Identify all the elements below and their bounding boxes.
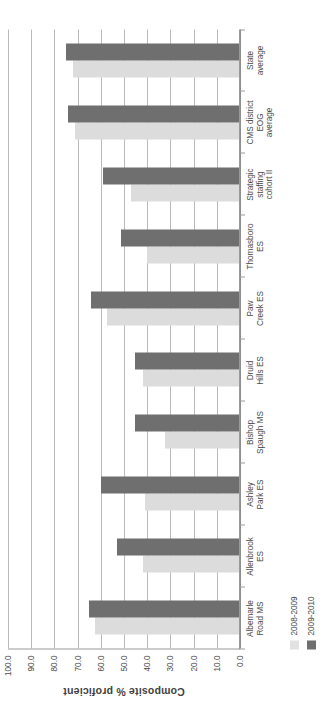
bar-2008-2009 <box>143 555 239 572</box>
legend-item[interactable]: 2008-2009 <box>290 596 299 649</box>
category-label-line: average <box>265 92 275 152</box>
bar-group <box>8 462 239 524</box>
bar-group <box>8 400 239 462</box>
bar-2008-2009 <box>73 60 239 77</box>
bar-group <box>8 91 239 153</box>
category-label-line: Paw <box>246 278 256 338</box>
bar-2008-2009 <box>95 617 239 634</box>
bar-2009-2010 <box>121 229 239 246</box>
category-label-line: Park ES <box>256 464 266 524</box>
legend-swatch-icon <box>290 640 299 649</box>
bar-2009-2010 <box>101 476 239 493</box>
bar-2008-2009 <box>143 369 239 386</box>
category-tick <box>240 462 245 463</box>
bar-groups <box>8 29 239 648</box>
category-tick-marks <box>240 29 245 649</box>
category-label: Stateaverage <box>246 29 286 91</box>
plot-wrapper: Composite % proficient 0.010.020.030.040… <box>0 0 330 705</box>
category-label-line: Thomasboro <box>246 216 256 276</box>
category-tick <box>240 586 245 587</box>
category-label-line: CMS district <box>246 92 256 152</box>
y-axis-tick-label: 30.0 <box>166 655 175 671</box>
category-label-line: staffing <box>256 154 266 214</box>
category-tick <box>240 29 245 30</box>
chart-legend: 2008-20092009-2010 <box>290 29 326 649</box>
bar-group <box>8 29 239 91</box>
legend-item[interactable]: 2009-2010 <box>307 596 316 649</box>
category-label-line: ES <box>256 216 266 276</box>
category-axis-labels: AlbemarleRoad MSAllenbrookESAshleyPark E… <box>246 29 286 649</box>
category-label-line: Spaugh MS <box>256 402 266 462</box>
y-axis-title-text: Composite % proficient <box>63 685 185 697</box>
category-label: AshleyPark ES <box>246 463 286 525</box>
chart-canvas: Composite % proficient 0.010.020.030.040… <box>0 0 330 705</box>
y-axis-tick-label: 70.0 <box>73 655 82 671</box>
y-axis-tick-labels: 0.010.020.030.040.050.060.070.080.090.01… <box>0 651 248 685</box>
bar-2009-2010 <box>89 600 239 617</box>
category-label-line: Allenbrook <box>246 526 256 586</box>
y-axis-tick-label: 20.0 <box>189 655 198 671</box>
category-tick <box>240 400 245 401</box>
bar-2008-2009 <box>107 308 239 325</box>
bar-2009-2010 <box>66 43 239 60</box>
y-axis-tick-label: 40.0 <box>143 655 152 671</box>
bar-2009-2010 <box>135 414 239 431</box>
y-axis-tick-label: 10.0 <box>212 655 221 671</box>
category-label: BishopSpaugh MS <box>246 401 286 463</box>
category-label: AllenbrookES <box>246 525 286 587</box>
bar-2008-2009 <box>147 246 239 263</box>
category-label-line: cohort II <box>265 154 275 214</box>
category-label: AlbemarleRoad MS <box>246 587 286 649</box>
y-axis-tick-label: 80.0 <box>50 655 59 671</box>
bar-group <box>8 586 239 648</box>
category-label-line: Ashley <box>246 464 256 524</box>
y-axis-tick-label: 100.0 <box>4 655 13 676</box>
category-label-line: ES <box>256 526 266 586</box>
rotated-figure: Composite % proficient 0.010.020.030.040… <box>0 0 330 705</box>
bar-2009-2010 <box>91 291 239 308</box>
category-label-line: average <box>256 30 266 90</box>
bar-group <box>8 524 239 586</box>
bar-2008-2009 <box>131 184 239 201</box>
category-label-line: EOG <box>256 92 266 152</box>
bar-2008-2009 <box>75 122 239 139</box>
bar-group <box>8 153 239 215</box>
category-tick <box>240 276 245 277</box>
legend-swatch-icon <box>307 640 316 649</box>
category-label-line: Creek ES <box>256 278 266 338</box>
category-label: PawCreek ES <box>246 277 286 339</box>
bar-group <box>8 277 239 339</box>
y-axis-tick-label: 50.0 <box>120 655 129 671</box>
category-label-line: Druid <box>246 340 256 400</box>
category-label-line: Hills ES <box>256 340 266 400</box>
y-axis-tick-label: 0.0 <box>236 655 245 666</box>
y-axis-tick-label: 60.0 <box>96 655 105 671</box>
category-label-line: Strategic <box>246 154 256 214</box>
category-tick <box>240 524 245 525</box>
plot-area <box>8 29 240 649</box>
bar-group <box>8 338 239 400</box>
category-tick <box>240 90 245 91</box>
category-label-line: Bishop <box>246 402 256 462</box>
bar-group <box>8 215 239 277</box>
category-tick <box>240 648 245 649</box>
y-axis-tick-label: 90.0 <box>27 655 36 671</box>
category-label: ThomasboroES <box>246 215 286 277</box>
category-tick <box>240 214 245 215</box>
bar-2009-2010 <box>68 105 239 122</box>
bar-2009-2010 <box>135 352 239 369</box>
legend-label: 2008-2009 <box>290 596 299 635</box>
category-label: Strategicstaffingcohort II <box>246 153 286 215</box>
category-tick <box>240 152 245 153</box>
category-label-line: Albemarle <box>246 588 256 648</box>
bar-2009-2010 <box>103 167 239 184</box>
category-tick <box>240 338 245 339</box>
category-label: CMS districtEOGaverage <box>246 91 286 153</box>
category-label-line: Road MS <box>256 588 266 648</box>
category-label-line: State <box>246 30 256 90</box>
bar-2008-2009 <box>165 431 239 448</box>
legend-label: 2009-2010 <box>307 596 316 635</box>
bar-2008-2009 <box>145 493 239 510</box>
bar-2009-2010 <box>117 538 239 555</box>
category-label: DruidHills ES <box>246 339 286 401</box>
